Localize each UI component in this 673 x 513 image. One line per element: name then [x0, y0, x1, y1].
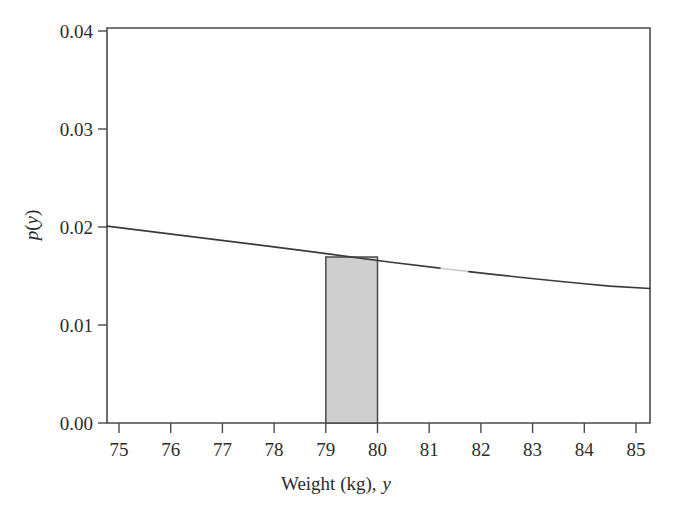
x-tick-label-6: 81 [420, 439, 439, 460]
y-tick-label-2: 0.02 [60, 217, 93, 238]
y-axis-title-close-paren: ) [21, 210, 43, 216]
x-axis-title-variable: y [381, 473, 392, 494]
x-tick-label-2: 77 [213, 439, 232, 460]
x-tick-label-5: 80 [368, 439, 387, 460]
x-axis-title-plain: Weight (kg), [281, 473, 377, 495]
y-axis-title-variable: y [21, 215, 42, 226]
y-axis-title: p(y) [21, 210, 43, 243]
x-tick-label-9: 84 [575, 439, 595, 460]
shaded-probability-region [326, 257, 378, 423]
x-tick-label-0: 75 [110, 439, 129, 460]
x-axis-title: Weight (kg),y [281, 473, 392, 495]
y-tick-label-3: 0.03 [60, 119, 93, 140]
chart-svg: 0.04 0.03 0.02 0.01 0.00 75 76 77 78 [0, 0, 673, 513]
x-tick-label-7: 82 [471, 439, 490, 460]
y-axis-title-p: p [21, 231, 42, 243]
x-tick-label-1: 76 [161, 439, 180, 460]
y-tick-label-4: 0.04 [60, 21, 94, 42]
x-tick-label-4: 79 [316, 439, 335, 460]
x-tick-label-8: 83 [523, 439, 542, 460]
y-tick-label-1: 0.01 [60, 315, 93, 336]
y-tick-label-0: 0.00 [60, 413, 93, 434]
x-tick-label-10: 85 [627, 439, 646, 460]
x-tick-label-3: 78 [265, 439, 284, 460]
y-axis-title-group: p(y) [21, 210, 43, 243]
density-plot-figure: 0.04 0.03 0.02 0.01 0.00 75 76 77 78 [0, 0, 673, 513]
